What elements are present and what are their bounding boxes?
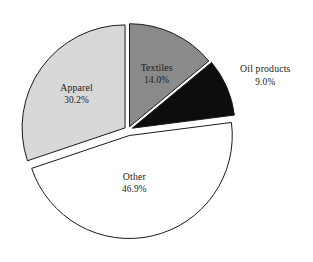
pie-label-value: 30.2% [64, 95, 89, 105]
pie-label-name: Apparel [60, 82, 93, 93]
pie-label-value: 14.0% [144, 75, 169, 85]
pie-label-name: Oil products [240, 64, 291, 75]
pie-slices-group [22, 24, 234, 239]
pie-chart-figure: Textiles14.0%Oil products9.0%Other46.9%A… [0, 0, 313, 262]
pie-label-oil-products: Oil products9.0% [240, 64, 291, 87]
pie-label-name: Other [123, 171, 147, 182]
pie-label-value: 46.9% [122, 184, 147, 194]
pie-label-value: 9.0% [255, 77, 275, 87]
pie-chart-canvas: Textiles14.0%Oil products9.0%Other46.9%A… [0, 0, 313, 262]
pie-label-name: Textiles [141, 62, 173, 73]
